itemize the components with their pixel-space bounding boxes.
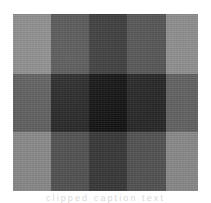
figure-root: clipped caption text xyxy=(0,0,211,203)
swatch-cell-r2c2 xyxy=(51,74,89,132)
swatch-cell-r1c1 xyxy=(13,14,51,74)
swatch-cell-r1c2 xyxy=(51,14,89,74)
swatch-cell-r2c1 xyxy=(13,74,51,132)
swatch-cell-r2c3 xyxy=(89,74,127,132)
swatch-cell-r1c5 xyxy=(166,14,198,74)
swatch-cell-r3c4 xyxy=(127,132,166,191)
swatch-cell-r1c4 xyxy=(127,14,166,74)
swatch-cell-r1c3 xyxy=(89,14,127,74)
swatch-cell-r2c4 xyxy=(127,74,166,132)
swatch-cell-r3c5 xyxy=(166,132,198,191)
swatch-cell-r3c2 xyxy=(51,132,89,191)
swatch-cell-r3c1 xyxy=(13,132,51,191)
clipped-caption-remnant: clipped caption text xyxy=(0,194,211,203)
swatch-cell-r3c3 xyxy=(89,132,127,191)
swatch-cell-r2c5 xyxy=(166,74,198,132)
plaid-texture-swatch xyxy=(13,14,198,191)
